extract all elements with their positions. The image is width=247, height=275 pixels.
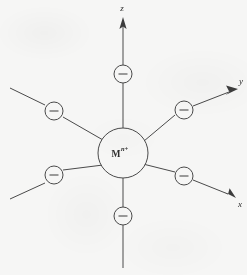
axis-x-arm-upper-left-outer <box>10 88 45 105</box>
axis-y-arm-upper-right-inner <box>144 115 175 141</box>
ligand-top <box>114 65 132 83</box>
axis-y-label: y <box>238 76 243 86</box>
ligand-bottom <box>114 207 132 225</box>
axis-x-arm-lower-right-inner <box>143 164 175 172</box>
central-metal-circle <box>98 128 148 178</box>
ligand-lower-right <box>175 167 193 185</box>
axis-y-arm-lower-left-outer <box>10 183 45 199</box>
central-metal-charge: n+ <box>121 145 129 152</box>
octahedral-complex-figure: z y x <box>0 0 247 275</box>
ligand-upper-right <box>175 101 193 119</box>
ligand-upper-left <box>45 102 63 120</box>
axis-x-arm-lower-right-outer <box>193 180 228 194</box>
axis-y-arrowhead <box>226 86 239 95</box>
axis-x-arm-upper-left-inner <box>63 117 103 140</box>
central-metal-ion: M n+ <box>98 128 148 178</box>
ligand-lower-left <box>45 166 63 184</box>
axis-z-label: z <box>119 3 124 13</box>
axis-x-arrowhead <box>225 188 236 198</box>
axis-y-arm-lower-left-inner <box>63 165 103 170</box>
diagram-canvas: z y x <box>0 0 247 275</box>
axis-y-arm-upper-right-outer <box>193 92 229 106</box>
axis-x-label: x <box>237 199 242 209</box>
central-metal-label: M <box>112 149 121 159</box>
